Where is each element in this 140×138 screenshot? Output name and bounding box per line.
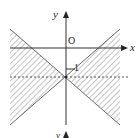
x-axis-label: x (130, 42, 135, 53)
inequality-region-figure: y x O 1 y (0, 0, 140, 138)
bottom-y-label: y (56, 131, 60, 138)
y-axis-label: y (53, 9, 58, 20)
intersection-point (65, 76, 67, 78)
origin-label: O (68, 36, 75, 46)
y-axis-arrow-icon (63, 11, 69, 18)
bottom-y-arrow-icon (63, 131, 69, 138)
tick-label-minus-1: 1 (74, 63, 79, 73)
x-axis-arrow-icon (121, 45, 128, 51)
coordinate-plane (0, 0, 140, 138)
